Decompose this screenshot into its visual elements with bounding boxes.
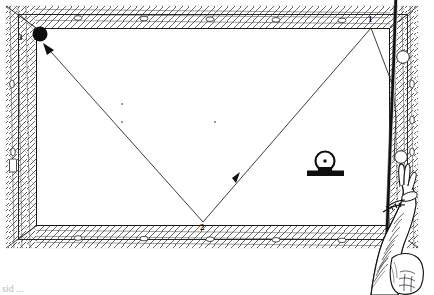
- cue-ball-lower: [395, 151, 408, 164]
- object-ball: [33, 27, 48, 42]
- cue-ball-upper: [397, 51, 410, 64]
- left-rail: [6, 6, 36, 248]
- aim-base: [307, 171, 344, 177]
- path-label-3: 3: [18, 33, 23, 42]
- path-label-2: 2: [200, 223, 205, 232]
- billiard-diagram: [0, 0, 434, 295]
- path-label-1: 1: [368, 15, 373, 24]
- figure-canvas: 1 2 3 sid ...: [0, 0, 434, 295]
- aim-base-neck: [318, 167, 332, 171]
- aim-center-dot: [323, 159, 326, 162]
- figure-caption: sid ...: [2, 283, 182, 295]
